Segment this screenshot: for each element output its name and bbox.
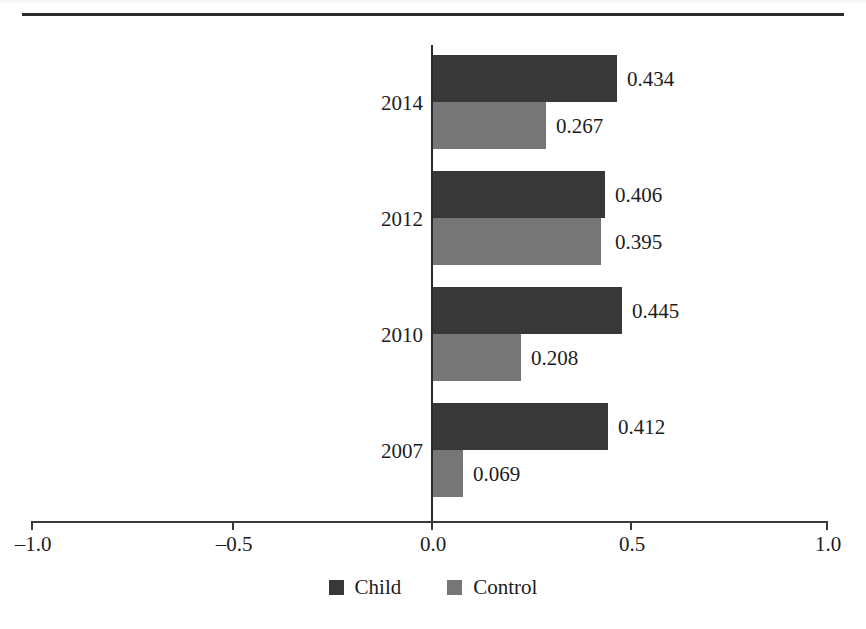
bar-value-control-2014: 0.267	[556, 114, 603, 138]
bar-child-2010[interactable]	[433, 287, 622, 334]
legend-item-child[interactable]: Child	[329, 575, 402, 599]
legend-label-control: Control	[473, 575, 537, 599]
axis-tick-0	[431, 521, 433, 530]
category-label-2012: 2012	[343, 207, 423, 231]
axis-tick-neg-0-5	[232, 521, 234, 530]
bar-value-child-2010: 0.445	[632, 299, 679, 323]
bar-child-2014[interactable]	[433, 55, 617, 102]
legend-label-child: Child	[355, 575, 402, 599]
bar-control-2010[interactable]	[433, 334, 521, 381]
chart-legend: Child Control	[0, 575, 866, 599]
bar-control-2007[interactable]	[433, 450, 463, 497]
axis-tick-0-5	[630, 521, 632, 530]
bar-value-control-2012: 0.395	[615, 230, 662, 254]
category-label-2010: 2010	[343, 323, 423, 347]
axis-tick-1	[826, 521, 828, 530]
axis-tick-label-1: 1.0	[788, 531, 866, 557]
bar-child-2012[interactable]	[433, 171, 605, 218]
bar-value-control-2010: 0.208	[531, 346, 578, 370]
bar-group-2014: 2014 0.434 0.267	[0, 55, 866, 151]
legend-item-control[interactable]: Control	[447, 575, 537, 599]
bar-chart: –1.0 –0.5 0.0 0.5 1.0 2014 0.434 0.267 2…	[0, 0, 866, 629]
axis-tick-label-0-5: 0.5	[592, 531, 672, 557]
bar-value-child-2007: 0.412	[618, 415, 665, 439]
bar-group-2010: 2010 0.445 0.208	[0, 287, 866, 383]
category-label-2014: 2014	[343, 91, 423, 115]
category-label-2007: 2007	[343, 439, 423, 463]
axis-tick-label-neg-1: –1.0	[0, 531, 73, 557]
axis-tick-label-0: 0.0	[393, 531, 473, 557]
legend-swatch-child-icon	[329, 580, 344, 595]
axis-tick-neg-1	[31, 521, 33, 530]
legend-swatch-control-icon	[447, 580, 462, 595]
bar-child-2007[interactable]	[433, 403, 608, 450]
bar-group-2007: 2007 0.412 0.069	[0, 403, 866, 499]
bar-control-2012[interactable]	[433, 218, 601, 265]
bar-value-control-2007: 0.069	[473, 462, 520, 486]
bar-group-2012: 2012 0.406 0.395	[0, 171, 866, 267]
value-axis-line	[31, 521, 828, 523]
bar-control-2014[interactable]	[433, 102, 546, 149]
axis-tick-label-neg-0-5: –0.5	[194, 531, 274, 557]
bar-value-child-2014: 0.434	[627, 67, 674, 91]
bar-value-child-2012: 0.406	[615, 183, 662, 207]
